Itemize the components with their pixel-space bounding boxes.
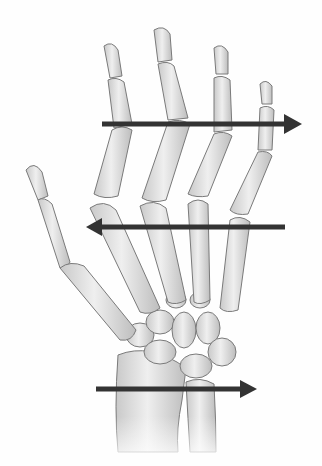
bones-svg [0,0,322,466]
middle-finger-bones [140,28,190,304]
hand-skeleton-illustration [0,0,322,466]
